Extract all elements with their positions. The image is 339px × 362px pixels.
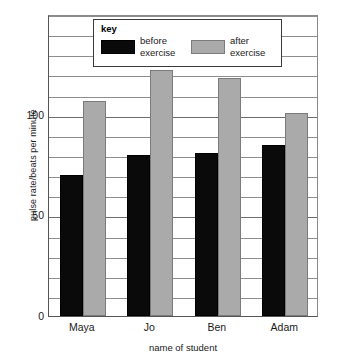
legend-label-before: beforeexercise	[140, 35, 175, 58]
bar-maya-before	[60, 175, 83, 316]
y-axis-title: pulse rate/beats per minute	[28, 75, 38, 255]
bar-adam-after	[285, 113, 308, 316]
legend-swatch-after-icon	[191, 40, 225, 54]
y-tick-label-0: 0	[4, 310, 44, 322]
legend-title: key	[101, 23, 117, 34]
bar-ben-before	[195, 153, 218, 316]
x-tick-label-adam: Adam	[249, 321, 319, 333]
x-tick-label-maya: Maya	[47, 321, 117, 333]
bar-adam-before	[262, 145, 285, 316]
bar-jo-after	[150, 70, 173, 316]
gridline-minor	[49, 97, 317, 98]
bar-jo-before	[127, 155, 150, 316]
gridline-minor	[49, 76, 317, 77]
x-tick-label-ben: Ben	[182, 321, 252, 333]
bar-maya-after	[83, 101, 106, 316]
bar-ben-after	[218, 78, 241, 316]
x-axis-title: name of student	[48, 342, 318, 353]
y-tick-label-100: 100	[4, 109, 44, 121]
y-tick-label-50: 50	[4, 209, 44, 221]
gridline-minor	[49, 16, 317, 17]
legend-swatch-before-icon	[101, 40, 135, 54]
legend-label-after: afterexercise	[230, 35, 265, 58]
x-tick-label-jo: Jo	[114, 321, 184, 333]
bar-chart: pulse rate/beats per minute 050100 MayaJ…	[0, 0, 339, 362]
legend-key-box: key beforeexercise afterexercise	[93, 19, 282, 67]
